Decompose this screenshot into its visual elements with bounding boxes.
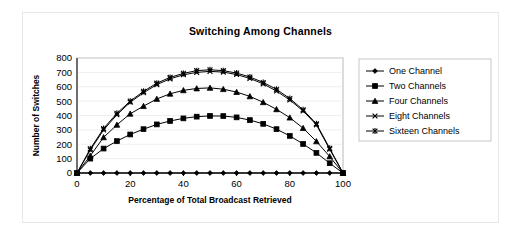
series-marker-1 [221,114,226,119]
legend-label-3: Eight Channels [389,111,451,121]
y-tick-label: 600 [56,81,72,92]
legend-label-4: Sixteen Channels [389,126,460,136]
legend-label-1: Two Channels [389,81,447,91]
y-tick-label: 500 [56,96,72,107]
x-tick-label: 100 [335,178,351,189]
series-marker-0 [221,171,226,176]
series-marker-1 [115,139,120,144]
x-tick-label: 20 [125,178,136,189]
series-marker-1 [101,146,106,151]
y-tick-label: 300 [56,124,72,135]
series-marker-0 [101,171,106,176]
series-marker-0 [261,171,266,176]
x-tick-label: 60 [231,178,242,189]
line-chart: 0100200300400500600700800020406080100Per… [23,13,500,224]
x-tick-label: 0 [74,178,79,189]
series-marker-2 [154,96,160,101]
series-marker-1 [168,119,173,124]
series-marker-0 [154,171,159,176]
series-marker-0 [301,171,306,176]
chart-frame: Switching Among Channels 010020030040050… [22,12,499,223]
legend-label-0: One Channel [389,66,442,76]
y-tick-label: 0 [67,167,72,178]
series-marker-0 [115,171,120,176]
x-tick-label: 40 [178,178,189,189]
series-marker-1 [327,161,332,166]
series-marker-1 [261,121,266,126]
series-marker-1 [208,114,213,119]
series-marker-0 [88,171,93,176]
series-marker-1 [301,142,306,147]
y-tick-label: 400 [56,110,72,121]
series-marker-0 [274,171,279,176]
y-tick-label: 200 [56,139,72,150]
series-marker-0 [327,171,332,176]
series-marker-2 [260,99,266,104]
series-marker-0 [234,171,239,176]
series-marker-0 [314,171,319,176]
y-axis-title: Number of Switches [31,74,41,156]
series-marker-0 [287,171,292,176]
series-marker-2 [141,103,147,108]
series-marker-0 [194,171,199,176]
x-axis-title: Percentage of Total Broadcast Retrieved [128,195,291,205]
y-tick-label: 800 [56,52,72,63]
series-marker-1 [287,134,292,139]
x-tick-label: 80 [285,178,296,189]
series-marker-0 [168,171,173,176]
legend-marker-1 [373,84,378,89]
series-marker-0 [141,171,146,176]
series-marker-1 [314,150,319,155]
y-tick-label: 700 [56,67,72,78]
series-marker-0 [181,171,186,176]
series-marker-1 [248,118,253,123]
series-marker-1 [154,122,159,127]
series-marker-1 [194,114,199,119]
legend-label-2: Four Channels [389,96,449,106]
y-tick-label: 100 [56,153,72,164]
series-marker-0 [128,171,133,176]
series-marker-1 [234,115,239,120]
series-marker-0 [208,171,213,176]
series-marker-1 [141,127,146,132]
series-marker-2 [274,107,280,112]
series-marker-0 [248,171,253,176]
series-marker-1 [274,127,279,132]
series-marker-1 [181,116,186,121]
series-marker-2 [127,111,133,116]
series-marker-1 [128,132,133,137]
